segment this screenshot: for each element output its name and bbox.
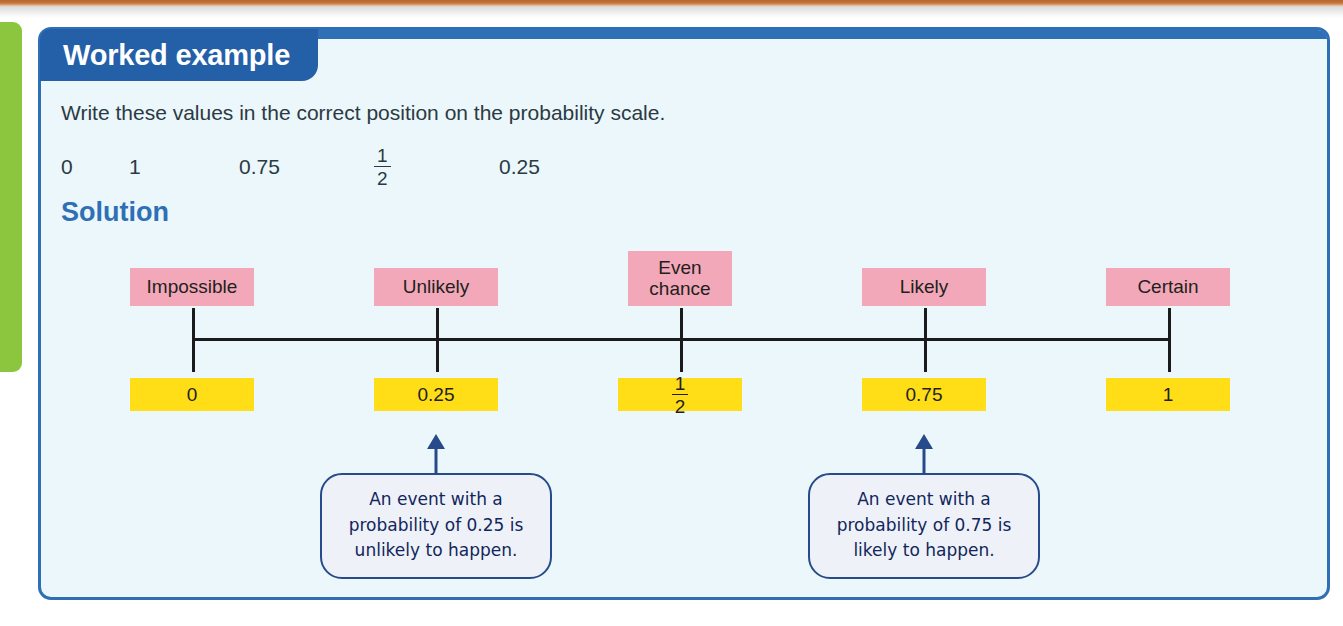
section-color-tab — [0, 22, 22, 372]
scale-tick — [680, 308, 683, 372]
worked-example-header: Worked example — [40, 29, 318, 81]
fraction-numerator: 1 — [672, 374, 689, 394]
prompt-text: Write these values in the correct positi… — [61, 101, 665, 125]
callout-line: probability of 0.75 is — [837, 515, 1012, 535]
callout-line: An event with a — [369, 489, 503, 509]
given-value-4: 0.25 — [499, 155, 540, 179]
callout-line: likely to happen. — [853, 540, 994, 560]
fraction-denominator: 2 — [672, 394, 689, 416]
fraction-one-half: 1 2 — [374, 146, 391, 188]
callout-line: unlikely to happen. — [355, 540, 518, 560]
worked-example-title: Worked example — [63, 39, 290, 72]
descriptor-label: Unlikely — [374, 268, 498, 306]
callout-arrow-icon — [427, 434, 445, 449]
value-label: 12 — [618, 378, 742, 411]
worked-example-card: Worked example Write these values in the… — [38, 27, 1330, 600]
given-value-2: 0.75 — [239, 155, 374, 179]
callout-arrow-stem — [923, 449, 926, 476]
solution-heading: Solution — [61, 197, 169, 228]
value-label: 1 — [1106, 378, 1230, 411]
scale-tick — [436, 308, 439, 372]
given-value-0: 0 — [61, 155, 129, 179]
scale-tick — [192, 308, 195, 372]
descriptor-label: Impossible — [130, 268, 254, 306]
value-label: 0.25 — [374, 378, 498, 411]
descriptor-label-text: Certain — [1137, 277, 1198, 297]
descriptor-label: Evenchance — [628, 251, 732, 306]
page-top-edge-shadow — [0, 7, 1343, 18]
callout-line: probability of 0.25 is — [349, 515, 524, 535]
probability-scale-diagram: Impossible0Unlikely0.25Evenchance12Likel… — [41, 245, 1327, 425]
callout-arrow-stem — [435, 449, 438, 476]
callout-arrow-icon — [915, 434, 933, 449]
descriptor-label-text: Evenchance — [649, 258, 710, 298]
page-top-edge-strip — [0, 0, 1343, 7]
descriptor-label-text: Impossible — [147, 277, 238, 297]
descriptor-label: Likely — [862, 268, 986, 306]
given-values-row: 0 1 0.75 1 2 0.25 — [61, 146, 540, 188]
value-label: 0.75 — [862, 378, 986, 411]
descriptor-label-text: Unlikely — [403, 277, 470, 297]
value-label-text: 1 — [1163, 384, 1174, 406]
descriptor-label: Certain — [1106, 268, 1230, 306]
scale-tick — [1168, 308, 1171, 372]
fraction-numerator: 1 — [374, 146, 391, 166]
value-label-text: 0.75 — [906, 384, 943, 406]
scale-tick — [924, 308, 927, 372]
descriptor-label-text: Likely — [900, 277, 949, 297]
callout-bubble: An event with aprobability of 0.75 islik… — [808, 473, 1040, 579]
value-label: 0 — [130, 378, 254, 411]
value-fraction: 12 — [672, 374, 689, 416]
value-label-text: 0 — [187, 384, 198, 406]
callout-bubble: An event with aprobability of 0.25 isunl… — [320, 473, 552, 579]
value-label-text: 0.25 — [418, 384, 455, 406]
fraction-denominator: 2 — [374, 166, 391, 188]
given-value-1: 1 — [129, 155, 239, 179]
given-value-3: 1 2 — [374, 146, 499, 188]
callout-line: An event with a — [857, 489, 991, 509]
